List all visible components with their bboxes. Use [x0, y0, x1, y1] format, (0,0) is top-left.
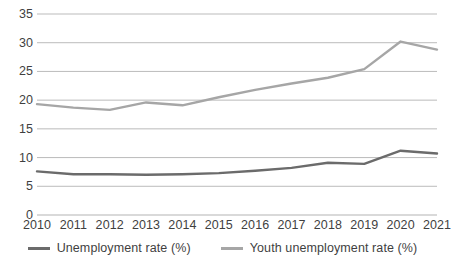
x-tick-label: 2014 — [168, 219, 196, 232]
plot-area — [37, 14, 437, 215]
chart-legend: Unemployment rate (%)Youth unemployment … — [0, 242, 445, 255]
gridlines — [37, 14, 437, 215]
legend-label: Unemployment rate (%) — [57, 242, 191, 255]
y-tick-label: 5 — [0, 180, 33, 193]
x-tick-label: 2010 — [23, 219, 51, 232]
x-tick-label: 2013 — [132, 219, 160, 232]
legend-label: Youth unemployment rate (%) — [250, 242, 418, 255]
x-tick-label: 2020 — [387, 219, 415, 232]
legend-item-2[interactable]: Youth unemployment rate (%) — [221, 242, 418, 255]
y-tick-label: 35 — [0, 8, 33, 21]
x-tick-label: 2012 — [96, 219, 124, 232]
x-tick-label: 2011 — [60, 219, 87, 232]
legend-line-swatch-icon — [28, 247, 50, 250]
x-axis: 2010201120122013201420152016201720182019… — [37, 219, 437, 237]
x-tick-label: 2017 — [277, 219, 305, 232]
series-line-1 — [37, 151, 437, 175]
legend-line-swatch-icon — [221, 247, 243, 250]
x-tick-label: 2021 — [423, 219, 451, 232]
y-tick-label: 20 — [0, 94, 33, 107]
x-tick-label: 2016 — [241, 219, 269, 232]
y-tick-label: 25 — [0, 65, 33, 78]
x-tick-label: 2015 — [205, 219, 233, 232]
y-tick-label: 10 — [0, 151, 33, 164]
y-axis: 05101520253035 — [0, 0, 33, 215]
legend-item-1[interactable]: Unemployment rate (%) — [28, 242, 191, 255]
x-tick-label: 2018 — [314, 219, 342, 232]
y-tick-label: 15 — [0, 123, 33, 136]
series-line-2 — [37, 42, 437, 110]
series-lines — [37, 42, 437, 175]
y-tick-label: 30 — [0, 36, 33, 49]
x-tick-label: 2019 — [350, 219, 378, 232]
plot-svg — [37, 14, 437, 215]
